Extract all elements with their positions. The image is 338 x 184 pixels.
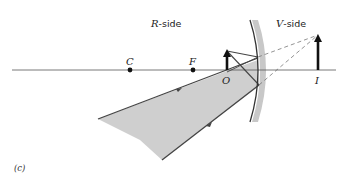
virtual-ray-lower: [259, 35, 318, 85]
r-side-label: R-side: [150, 18, 182, 29]
label-c: C: [126, 56, 134, 67]
ray-diagram: C F O I R-side V-side (c): [0, 0, 338, 184]
object-arrow-head: [223, 49, 231, 57]
label-o: O: [222, 75, 230, 86]
label-i: I: [314, 75, 320, 86]
v-side-label: V-side: [276, 18, 306, 29]
image-arrow-head: [314, 34, 322, 42]
focal-point: [191, 68, 196, 73]
center-point: [128, 68, 133, 73]
label-f: F: [188, 56, 197, 67]
figure-caption: (c): [14, 163, 25, 173]
virtual-ray-upper: [258, 35, 318, 57]
